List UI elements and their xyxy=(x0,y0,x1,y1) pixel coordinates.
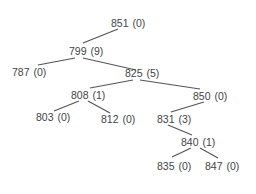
tree-node-812: 812(0) xyxy=(101,113,135,125)
node-id: 850 xyxy=(193,90,211,102)
tree-node-799: 799(9) xyxy=(69,45,103,57)
node-count: (0) xyxy=(179,160,192,172)
edge-808-803 xyxy=(54,101,79,111)
tree-node-850: 850(0) xyxy=(193,90,227,102)
node-id: 825 xyxy=(125,67,143,79)
tree-node-851: 851(0) xyxy=(111,17,145,29)
tree-node-803: 803(0) xyxy=(36,111,70,123)
node-count: (0) xyxy=(123,113,136,125)
node-count: (9) xyxy=(91,45,104,57)
tree-node-787: 787(0) xyxy=(12,66,46,78)
node-id: 808 xyxy=(71,89,89,101)
edge-851-799 xyxy=(83,29,118,43)
node-count: (3) xyxy=(179,113,192,125)
tree-node-840: 840(1) xyxy=(181,136,215,148)
node-count: (1) xyxy=(203,136,216,148)
edge-808-812 xyxy=(88,101,110,113)
node-id: 835 xyxy=(157,160,175,172)
node-id: 787 xyxy=(12,66,30,78)
node-id: 851 xyxy=(111,17,129,29)
node-id: 847 xyxy=(205,160,223,172)
tree-node-825: 825(5) xyxy=(125,67,159,79)
node-count: (1) xyxy=(93,89,106,101)
node-count: (0) xyxy=(215,90,228,102)
tree-node-831: 831(3) xyxy=(157,113,191,125)
edge-850-831 xyxy=(171,102,204,112)
edge-831-840 xyxy=(168,125,192,135)
node-id: 799 xyxy=(69,45,87,57)
edge-840-835 xyxy=(172,148,191,157)
node-id: 831 xyxy=(157,113,175,125)
edge-825-808 xyxy=(90,80,133,88)
tree-node-808: 808(1) xyxy=(71,89,105,101)
edge-799-787 xyxy=(38,58,75,65)
edge-840-847 xyxy=(200,148,218,158)
tree-node-847: 847(0) xyxy=(205,160,239,172)
node-count: (0) xyxy=(227,160,240,172)
node-count: (0) xyxy=(58,111,71,123)
tree-node-835: 835(0) xyxy=(157,160,191,172)
node-count: (0) xyxy=(133,17,146,29)
edge-825-850 xyxy=(140,80,200,89)
node-count: (0) xyxy=(34,66,47,78)
node-id: 803 xyxy=(36,111,54,123)
node-count: (5) xyxy=(147,67,160,79)
node-id: 840 xyxy=(181,136,199,148)
node-id: 812 xyxy=(101,113,119,125)
